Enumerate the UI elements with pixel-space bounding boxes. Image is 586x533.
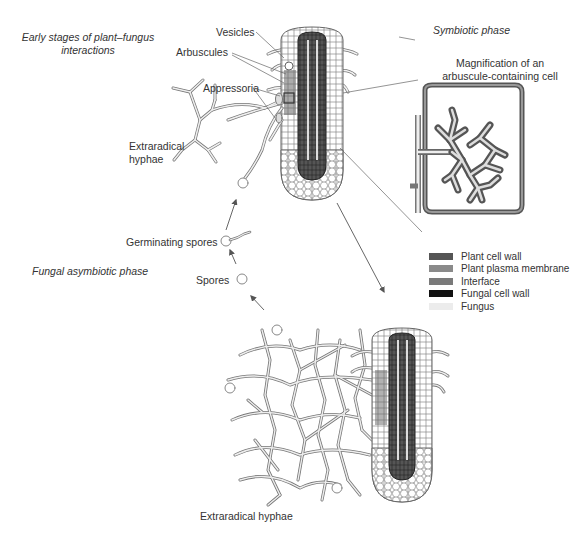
- legend-swatch: [429, 253, 453, 260]
- legend-item-fungus: Fungus: [429, 300, 569, 313]
- label-vesicles: Vesicles: [216, 26, 255, 39]
- title-symbiotic-phase: Symbiotic phase: [433, 24, 510, 37]
- label-spores: Spores: [196, 274, 229, 287]
- label-magnification-line1: Magnification of an: [425, 57, 575, 70]
- label-appressoria: Appressoria: [203, 82, 259, 95]
- legend-item-plant-cell-wall: Plant cell wall: [429, 250, 569, 263]
- label-magnification-line2: arbuscule-containing cell: [425, 70, 575, 83]
- root-top: [268, 27, 357, 200]
- legend-item-plant-plasma-membrane: Plant plasma membrane: [429, 263, 569, 276]
- legend: Plant cell wall Plant plasma membrane In…: [429, 250, 569, 313]
- title-asymbiotic-phase: Fungal asymbiotic phase: [32, 265, 148, 278]
- legend-item-interface: Interface: [429, 275, 569, 288]
- root-bottom: [352, 328, 448, 502]
- legend-label: Fungal cell wall: [461, 288, 529, 299]
- legend-swatch: [429, 278, 453, 285]
- label-extraradical-line2: hyphae: [129, 153, 184, 166]
- legend-label: Plant plasma membrane: [461, 263, 569, 274]
- label-arbuscules: Arbuscules: [176, 46, 228, 59]
- label-magnification: Magnification of an arbuscule-containing…: [425, 57, 575, 83]
- legend-item-fungal-cell-wall: Fungal cell wall: [429, 288, 569, 301]
- legend-label: Fungus: [461, 301, 494, 312]
- label-extraradical-line1: Extraradical: [129, 140, 184, 153]
- cycle-arrows: [226, 200, 384, 310]
- extraradical-hyphae-bottom: [225, 325, 372, 505]
- title-early-stages: Early stages of plant–fungus interaction…: [18, 31, 158, 57]
- label-germinating-spores: Germinating spores: [126, 236, 218, 249]
- arbuscule-cell: [410, 85, 522, 213]
- extraradical-hyphae-top: [173, 80, 283, 188]
- legend-swatch: [429, 265, 453, 272]
- label-extraradical-hyphae-top: Extraradical hyphae: [129, 140, 184, 166]
- title-early-line1: Early stages of plant–fungus: [18, 31, 158, 44]
- legend-label: Interface: [461, 276, 500, 287]
- legend-swatch: [429, 290, 453, 297]
- legend-swatch: [429, 303, 453, 310]
- label-extraradical-hyphae-bottom: Extraradical hyphae: [200, 510, 293, 523]
- legend-label: Plant cell wall: [461, 251, 522, 262]
- title-early-line2: interactions: [18, 44, 158, 57]
